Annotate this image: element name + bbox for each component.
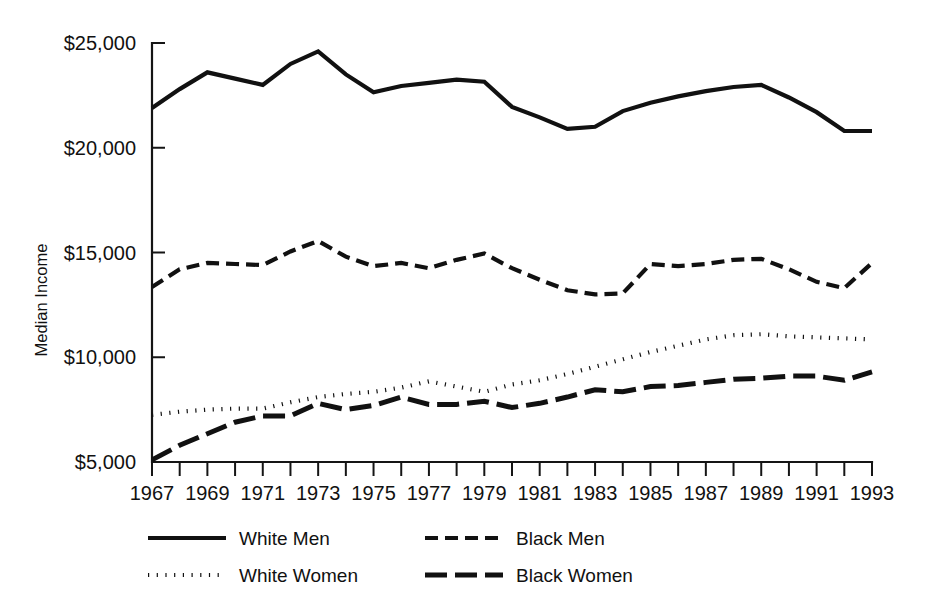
- x-tick-label: 1967: [130, 482, 175, 504]
- median-income-line-chart: $25,000$20,000$15,000$10,000$5,000 19671…: [0, 0, 929, 610]
- chart-legend: White MenBlack MenWhite WomenBlack Women: [148, 528, 633, 586]
- legend-label-black-men: Black Men: [516, 528, 605, 549]
- y-axis-tick-labels: $25,000$20,000$15,000$10,000$5,000: [64, 32, 136, 473]
- data-series-group: [152, 51, 872, 460]
- x-tick-label: 1971: [241, 482, 286, 504]
- x-tick-label: 1985: [628, 482, 673, 504]
- x-tick-label: 1977: [407, 482, 452, 504]
- y-axis-title: Median Income: [32, 244, 50, 357]
- x-tick-label: 1983: [573, 482, 618, 504]
- x-tick-label: 1989: [739, 482, 784, 504]
- series-line-black-men: [152, 241, 872, 294]
- legend-label-white-men: White Men: [239, 528, 330, 549]
- y-tick-label: $10,000: [64, 346, 136, 368]
- x-tick-label: 1987: [684, 482, 729, 504]
- x-tick-label: 1991: [794, 482, 839, 504]
- x-tick-label: 1973: [296, 482, 341, 504]
- legend-label-white-women: White Women: [239, 565, 358, 586]
- x-tick-label: 1969: [185, 482, 230, 504]
- legend-label-black-women: Black Women: [516, 565, 633, 586]
- x-tick-label: 1979: [462, 482, 507, 504]
- x-tick-label: 1981: [517, 482, 562, 504]
- x-axis-ticks: [152, 462, 872, 476]
- series-line-white-women: [152, 334, 872, 415]
- chart-container: $25,000$20,000$15,000$10,000$5,000 19671…: [0, 0, 929, 610]
- y-tick-label: $20,000: [64, 137, 136, 159]
- y-tick-label: $15,000: [64, 242, 136, 264]
- y-tick-label: $25,000: [64, 32, 136, 54]
- x-tick-label: 1975: [351, 482, 396, 504]
- series-line-black-women: [152, 372, 872, 460]
- x-axis-tick-labels: 1967196919711973197519771979198119831985…: [130, 482, 895, 504]
- y-tick-label: $5,000: [75, 451, 136, 473]
- series-line-white-men: [152, 51, 872, 131]
- x-tick-label: 1993: [850, 482, 895, 504]
